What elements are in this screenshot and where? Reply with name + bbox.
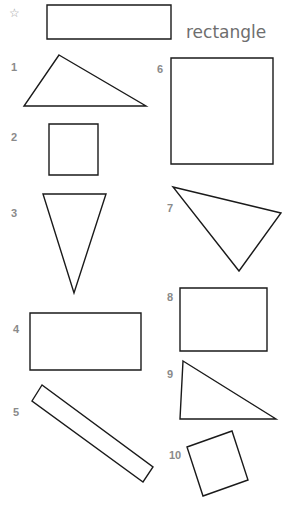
shape-6-square [171,58,273,164]
shape-9-triangle [180,361,276,419]
shape-8-rectangle [180,288,267,351]
shape-3-triangle [43,194,106,293]
shape-5-rectangle [32,385,153,482]
shape-2-label: 2 [11,131,17,143]
shape-4-label: 4 [13,323,19,335]
shape-6-label: 6 [157,63,163,75]
shapes-canvas [0,0,285,508]
shape-7-triangle [173,187,281,271]
shape-3-label: 3 [11,207,17,219]
shape-5-label: 5 [13,406,19,418]
example-rectangle-shape [47,5,171,39]
shape-7-label: 7 [167,202,173,214]
shape-10-label: 10 [169,449,181,461]
shape-4-rectangle [30,313,141,370]
shape-1-label: 1 [11,61,17,73]
shape-2-square [49,124,98,175]
shape-9-label: 9 [167,368,173,380]
shape-1-triangle [24,55,146,106]
shape-8-label: 8 [167,291,173,303]
shape-10-square [187,431,248,496]
